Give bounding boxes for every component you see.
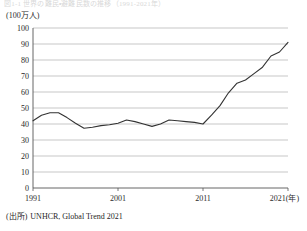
y-tick-label-20: 20 <box>21 152 29 161</box>
x-tick-label-2011: 2011 <box>195 194 211 204</box>
y-tick-label-30: 30 <box>21 136 29 145</box>
gridlines-group <box>33 28 288 188</box>
figure-root: 図1-1 世界の難民・避難民数の推移（1991-2021年） (100万人) 0… <box>0 0 307 231</box>
y-tick-label-0: 0 <box>25 184 29 193</box>
source-note: (出所)UNHCR, Global Trend 2021 <box>6 211 123 222</box>
x-tick-label-2001: 2001 <box>110 194 126 204</box>
y-tick-label-90: 90 <box>21 40 29 49</box>
source-label: (出所) <box>6 212 27 221</box>
y-tick-label-100: 100 <box>17 24 29 33</box>
y-tick-label-60: 60 <box>21 88 29 97</box>
x-tick-label-2021: 2021(年) <box>270 194 299 204</box>
y-tick-label-10: 10 <box>21 168 29 177</box>
y-tick-labels-group: 0102030405060708090100 <box>17 24 29 193</box>
y-tick-label-40: 40 <box>21 120 29 129</box>
x-tick-label-1991: 1991 <box>25 194 41 204</box>
line-chart-svg: 0102030405060708090100 <box>0 22 307 194</box>
y-axis-unit-label: (100万人) <box>6 11 39 21</box>
y-tick-label-50: 50 <box>21 104 29 113</box>
figure-title: 図1-1 世界の難民・避難民数の推移（1991-2021年） <box>4 0 304 9</box>
y-tick-label-70: 70 <box>21 72 29 81</box>
source-text: UNHCR, Global Trend 2021 <box>30 212 122 221</box>
y-tick-label-80: 80 <box>21 56 29 65</box>
data-series-line <box>33 42 288 128</box>
plot-area: 0102030405060708090100 <box>0 22 307 194</box>
